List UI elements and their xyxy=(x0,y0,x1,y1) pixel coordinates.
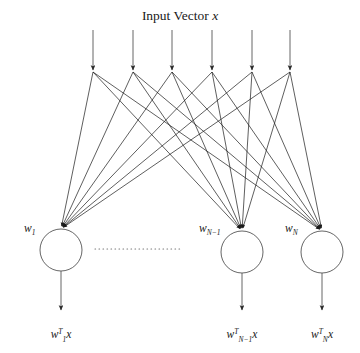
figure-title-variable: x xyxy=(211,8,218,23)
weight-label-2: wN−1 xyxy=(199,222,221,237)
neuron-n xyxy=(301,231,343,273)
weight-label-subscript-1: 1 xyxy=(32,228,36,237)
connection-edge-group xyxy=(62,72,322,229)
connection-edge-input1-neuron1 xyxy=(62,72,93,226)
connection-edge-input3-neuron3 xyxy=(172,72,320,229)
connection-edge-input1-neuron2 xyxy=(93,72,240,229)
input-arrow-group xyxy=(93,30,290,70)
output-label-variable-3: x xyxy=(327,328,334,340)
output-label-group: wT1xwTN−1xwTNx xyxy=(51,327,334,345)
connection-edge-input1-neuron3 xyxy=(93,72,320,229)
figure-title: Input Vector x xyxy=(142,8,218,23)
weight-label-subscript-3: N xyxy=(292,228,299,237)
neuron-n-minus-1 xyxy=(221,231,263,273)
connection-edge-input5-neuron2 xyxy=(242,72,252,228)
weight-label-1: w1 xyxy=(24,222,35,237)
neuron-1 xyxy=(40,229,82,271)
connection-edge-input2-neuron1 xyxy=(62,72,133,226)
connection-edge-input3-neuron2 xyxy=(172,72,241,228)
connection-edge-input3-neuron1 xyxy=(63,72,172,227)
diagram-canvas: Input Vector x w1wN−1wN wT1xwTN−1xwTNx xyxy=(0,0,360,353)
connection-edge-input2-neuron2 xyxy=(133,72,240,229)
connection-edge-input6-neuron2 xyxy=(243,72,290,228)
connection-edge-input2-neuron3 xyxy=(133,72,320,229)
connection-edge-input6-neuron3 xyxy=(290,72,321,228)
output-label-2: wTN−1x xyxy=(227,327,259,345)
connection-edge-input5-neuron3 xyxy=(252,72,321,228)
weight-label-3: wN xyxy=(285,222,299,237)
output-label-subscript-2: N−1 xyxy=(237,335,252,344)
connection-edge-input4-neuron3 xyxy=(212,72,320,229)
neural-network-figure: Input Vector x w1wN−1wN wT1xwTN−1xwTNx xyxy=(0,0,360,353)
output-arrow-group xyxy=(61,271,322,310)
output-label-1: wT1x xyxy=(51,327,73,345)
output-label-variable-2: x xyxy=(251,328,258,340)
connection-edge-input4-neuron1 xyxy=(63,72,212,227)
output-label-variable-1: x xyxy=(65,328,72,340)
output-label-3: wTNx xyxy=(311,327,334,345)
figure-title-prefix: Input Vector xyxy=(142,8,212,23)
connection-edge-input4-neuron2 xyxy=(212,72,241,228)
weight-label-subscript-2: N−1 xyxy=(206,228,221,237)
